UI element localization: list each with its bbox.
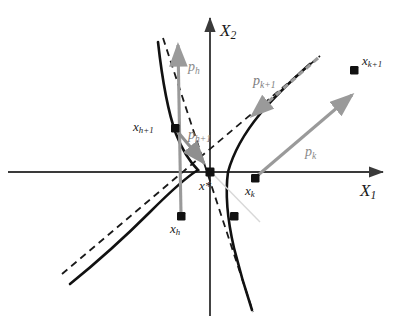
point-marker-curve-lower-right (230, 212, 239, 221)
asymptote-shallow (62, 56, 320, 274)
x1-axis-label-main: X (360, 181, 370, 200)
p-h-plus-1-label: ph+1 (188, 128, 211, 144)
x-h-label-sub: h (176, 227, 180, 237)
p-k-label-sub: k (312, 151, 316, 161)
p-h-plus-1-label-main: p (188, 127, 195, 142)
x2-axis-label: X2 (220, 22, 236, 42)
x-star-origin-label: x* (199, 179, 211, 192)
x-k-label-sub: k (251, 189, 255, 199)
p-k-plus-1-label: pk+1 (253, 74, 275, 90)
x1-axis-label: X1 (360, 182, 376, 202)
p-k-arrow (257, 95, 352, 176)
x-k-label: xk (245, 184, 255, 199)
x-k-plus-1-label: xk+1 (362, 54, 382, 69)
x1-axis-label-sub: 1 (370, 189, 376, 202)
p-h-label-sub: h (195, 66, 200, 76)
x-h-plus-1-label: xh+1 (133, 120, 154, 135)
x-h-plus-1-label-sub: h+1 (139, 125, 154, 135)
point-marker-x-k (251, 174, 260, 183)
point-marker-x-star-origin (206, 168, 215, 177)
x-h-label: xh (170, 222, 180, 237)
x2-axis-label-main: X (220, 21, 230, 40)
point-marker-x-h (177, 212, 186, 221)
p-k-plus-1-label-main: p (253, 73, 260, 88)
figure-canvas: X2 X1 x* xh+1 xh xk xk+1 ph ph+1 pk pk+1 (0, 0, 409, 325)
p-k-label: pk (305, 145, 316, 161)
p-k-plus-1-label-sub: k+1 (260, 80, 275, 90)
diagram-svg (0, 0, 409, 325)
p-k-label-main: p (305, 144, 312, 159)
point-marker-x-h-plus-1 (171, 124, 180, 133)
p-h-label-main: p (188, 59, 195, 74)
x-k-plus-1-label-sub: k+1 (368, 59, 382, 69)
p-h-plus-1-label-sub: h+1 (195, 134, 211, 144)
p-h-label: ph (188, 60, 200, 76)
x-star-origin-label-text: x* (199, 178, 211, 193)
point-marker-x-k-plus-1 (350, 66, 359, 75)
x2-axis-label-sub: 2 (230, 29, 236, 42)
